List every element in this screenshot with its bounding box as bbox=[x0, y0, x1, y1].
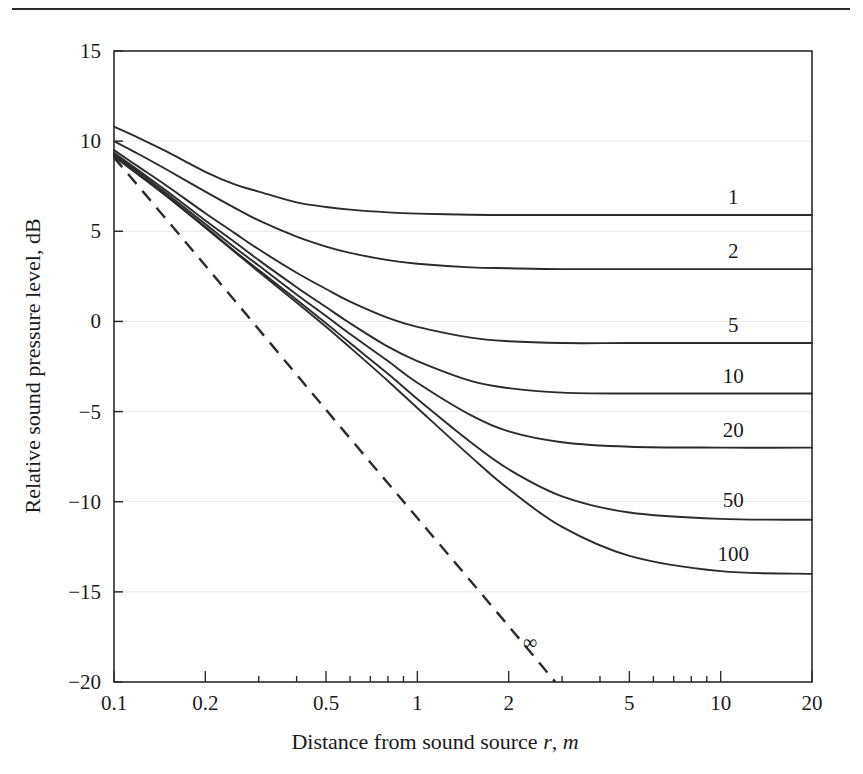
x-tick-label: 2 bbox=[503, 691, 514, 715]
plot-frame bbox=[114, 51, 812, 682]
curve-label-100: 100 bbox=[717, 542, 749, 566]
curve-label-2: 2 bbox=[728, 239, 739, 263]
grid-lines bbox=[114, 141, 812, 592]
y-tick-label: 5 bbox=[91, 219, 102, 243]
curve-label-1: 1 bbox=[728, 185, 739, 209]
data-curves bbox=[114, 127, 812, 574]
curve-50 bbox=[114, 156, 812, 520]
infinity-label: ∞ bbox=[523, 631, 537, 653]
y-tick-label: 10 bbox=[80, 129, 101, 153]
x-tick-label: 0.1 bbox=[101, 691, 127, 715]
x-tick-label: 20 bbox=[802, 691, 823, 715]
y-tick-label: −10 bbox=[68, 490, 101, 514]
curve-labels: 125102050100 bbox=[717, 185, 749, 566]
curve-infinity-dashed bbox=[114, 157, 555, 682]
curve-label-20: 20 bbox=[723, 418, 744, 442]
x-axis-ticks bbox=[114, 671, 812, 682]
curve-1 bbox=[114, 127, 812, 215]
y-tick-label: −15 bbox=[68, 580, 101, 604]
curve-100 bbox=[114, 156, 812, 573]
plot-border bbox=[114, 51, 812, 682]
y-tick-label: 15 bbox=[80, 39, 101, 63]
y-tick-label: 0 bbox=[91, 309, 102, 333]
curve-label-10: 10 bbox=[723, 364, 744, 388]
x-axis-label: Distance from sound source r, m bbox=[291, 729, 578, 754]
chart-figure: 125102050100 151050−5−10−15−20 0.10.20.5… bbox=[0, 0, 863, 774]
y-tick-label: −20 bbox=[68, 670, 101, 694]
curve-5 bbox=[114, 150, 812, 343]
x-tick-label: 5 bbox=[624, 691, 635, 715]
x-tick-label: 0.5 bbox=[313, 691, 339, 715]
y-axis-tick-labels: 151050−5−10−15−20 bbox=[68, 39, 101, 694]
y-axis-label: Relative sound pressure level, dB bbox=[20, 218, 45, 513]
x-tick-label: 0.2 bbox=[192, 691, 218, 715]
x-axis-tick-labels: 0.10.20.51251020 bbox=[101, 691, 823, 715]
curve-10 bbox=[114, 153, 812, 394]
curve-2 bbox=[114, 141, 812, 269]
y-tick-label: −5 bbox=[79, 400, 101, 424]
curve-label-5: 5 bbox=[728, 313, 739, 337]
reference-line-infinity bbox=[114, 157, 555, 682]
figure-page: 125102050100 151050−5−10−15−20 0.10.20.5… bbox=[0, 0, 863, 774]
x-tick-label: 1 bbox=[412, 691, 423, 715]
curve-label-50: 50 bbox=[723, 488, 744, 512]
chart-svg: 125102050100 151050−5−10−15−20 0.10.20.5… bbox=[0, 0, 863, 774]
x-tick-label: 10 bbox=[710, 691, 731, 715]
